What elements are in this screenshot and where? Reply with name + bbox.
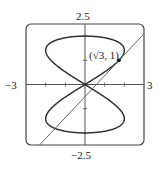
plot-area — [0, 0, 160, 170]
y-min-label: −2.5 — [71, 150, 91, 161]
y-max-label: 2.5 — [76, 11, 90, 22]
x-min-label: −3 — [5, 80, 17, 91]
x-max-label: 3 — [147, 80, 153, 91]
point-annotation: (√3, 1) — [89, 50, 119, 61]
